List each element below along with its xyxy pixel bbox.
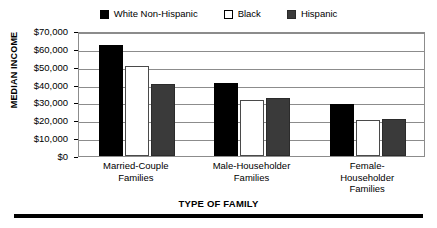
- y-axis-tick-label: $50,000: [34, 63, 68, 73]
- y-axis-tick-label: $40,000: [34, 81, 68, 91]
- bar-group: [195, 33, 311, 156]
- x-axis-category-label: Male-HouseholderFamilies: [194, 160, 310, 183]
- chart-container: White Non-Hispanic Black Hispanic MEDIAN…: [0, 0, 437, 228]
- x-axis-category-labels: Married-CoupleFamiliesMale-HouseholderFa…: [78, 160, 425, 202]
- y-axis-tick-label: $20,000: [34, 116, 68, 126]
- chart-legend: White Non-Hispanic Black Hispanic: [0, 6, 437, 22]
- legend-swatch-icon-black: [224, 10, 233, 19]
- x-axis-category-label-line: Families: [78, 172, 194, 184]
- bar-2-1: [125, 66, 149, 156]
- x-axis-category-label: Married-CoupleFamilies: [78, 160, 194, 183]
- bar-3-3: [382, 119, 406, 156]
- x-axis-category-label: Female-HouseholderFamilies: [309, 160, 425, 195]
- y-axis-tick-labels: $0$10,000$20,000$30,000$40,000$50,000$60…: [0, 26, 74, 163]
- x-axis-category-label-line: Householder: [309, 172, 425, 184]
- y-axis-tick-label: $0: [57, 152, 68, 162]
- x-axis-category-label-line: Male-Householder: [194, 160, 310, 172]
- x-axis-category-label-line: Families: [194, 172, 310, 184]
- bar-1-3: [330, 104, 354, 156]
- bar-group: [310, 33, 426, 156]
- x-axis-title: TYPE OF FAMILY: [0, 198, 437, 209]
- plot-area: [78, 32, 425, 157]
- bar-2-3: [356, 120, 380, 156]
- x-axis-category-label-line: Married-Couple: [78, 160, 194, 172]
- x-axis-category-label-line: Families: [309, 183, 425, 195]
- bar-2-2: [240, 100, 264, 156]
- y-axis-tick-mark: [74, 157, 78, 158]
- x-axis-category-label-line: Female-: [309, 160, 425, 172]
- legend-item-white-non-hispanic: White Non-Hispanic: [100, 9, 198, 19]
- y-axis-tick-label: $70,000: [34, 27, 68, 37]
- bottom-divider: [14, 214, 423, 218]
- y-axis-tick-label: $10,000: [34, 134, 68, 144]
- legend-label-hispanic: Hispanic: [301, 9, 337, 19]
- bar-3-2: [266, 98, 290, 156]
- bar-1-2: [214, 83, 238, 156]
- legend-label-white-non-hispanic: White Non-Hispanic: [114, 9, 198, 19]
- bar-group: [79, 33, 195, 156]
- legend-item-black: Black: [224, 9, 261, 19]
- bar-3-1: [151, 84, 175, 156]
- legend-swatch-icon-hispanic: [287, 10, 296, 19]
- legend-swatch-icon-white-non-hispanic: [100, 10, 109, 19]
- bar-1-1: [99, 45, 123, 156]
- legend-item-hispanic: Hispanic: [287, 9, 337, 19]
- y-axis-tick-label: $30,000: [34, 98, 68, 108]
- bars-layer: [79, 33, 424, 156]
- y-axis-tick-label: $60,000: [34, 45, 68, 55]
- legend-label-black: Black: [238, 9, 261, 19]
